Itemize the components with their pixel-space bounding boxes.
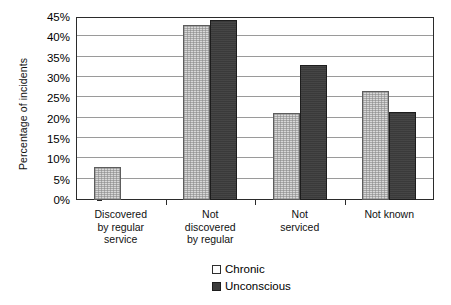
bar-chronic[interactable] bbox=[273, 113, 300, 200]
x-axis-category-label-line: service bbox=[76, 233, 166, 246]
y-axis-tick-label: 40% bbox=[26, 31, 70, 43]
y-axis-tick-label: 30% bbox=[26, 72, 70, 84]
x-axis-category-label: Notserviced bbox=[255, 208, 345, 233]
x-axis-category-label: Discoveredby regularservice bbox=[76, 208, 166, 246]
x-axis-category-label: Notdiscoveredby regular bbox=[166, 208, 256, 246]
bar-unconscious[interactable] bbox=[300, 65, 327, 200]
bar-unconscious[interactable] bbox=[210, 20, 237, 200]
x-axis-ticks bbox=[76, 200, 434, 206]
legend-label: Unconscious bbox=[225, 280, 291, 293]
x-axis-category-label-line: Not bbox=[166, 208, 256, 221]
y-axis-tick-label: 15% bbox=[26, 133, 70, 145]
x-axis-category-label-line: Discovered bbox=[76, 208, 166, 221]
legend-item-unconscious[interactable]: Unconscious bbox=[212, 278, 392, 295]
x-axis-category-label-line: Not known bbox=[345, 208, 435, 221]
y-axis-tick-label: 45% bbox=[26, 11, 70, 23]
x-axis-category-label-line: serviced bbox=[255, 221, 345, 234]
x-axis-category-label-line: by regular bbox=[76, 221, 166, 234]
x-axis-tick bbox=[345, 200, 346, 205]
y-axis-tick-label: 25% bbox=[26, 92, 70, 104]
x-axis-category-label-line: discovered bbox=[166, 221, 256, 234]
bar-unconscious[interactable] bbox=[389, 112, 416, 200]
bar-chronic[interactable] bbox=[362, 91, 389, 200]
y-axis-tick-label: 5% bbox=[26, 174, 70, 186]
x-axis-tick bbox=[255, 200, 256, 205]
light-swatch-icon bbox=[212, 265, 221, 274]
bar-chronic[interactable] bbox=[183, 25, 210, 200]
chart-legend: Chronic Unconscious bbox=[212, 261, 392, 295]
bar-chart: Percentage of incidents 0%5%10%15%20%25%… bbox=[0, 0, 451, 305]
y-axis-tick-label: 10% bbox=[26, 153, 70, 165]
legend-item-chronic[interactable]: Chronic bbox=[212, 261, 392, 278]
x-axis-category-label: Not known bbox=[345, 208, 435, 221]
y-axis-tick-labels: 0%5%10%15%20%25%30%35%40%45% bbox=[26, 17, 70, 200]
y-axis-tick-label: 20% bbox=[26, 113, 70, 125]
y-axis-tick-label: 35% bbox=[26, 52, 70, 64]
dark-swatch-icon bbox=[212, 282, 221, 291]
x-axis-category-label-line: by regular bbox=[166, 233, 256, 246]
x-axis-category-labels: Discoveredby regularserviceNotdiscovered… bbox=[76, 208, 434, 256]
x-axis-category-label-line: Not bbox=[255, 208, 345, 221]
x-axis-tick bbox=[166, 200, 167, 205]
bar-chronic[interactable] bbox=[94, 167, 121, 200]
bars-layer bbox=[76, 17, 434, 200]
legend-label: Chronic bbox=[225, 263, 265, 276]
y-axis-tick-label: 0% bbox=[26, 194, 70, 206]
